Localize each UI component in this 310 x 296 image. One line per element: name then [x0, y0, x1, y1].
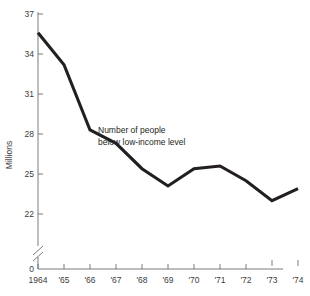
- line-chart: 37 34 31 28 25 22 0 Millions 1964 '65 '6…: [0, 0, 310, 296]
- y-tick-label-31: 31: [25, 89, 35, 99]
- x-tick-label-72: '72: [240, 275, 251, 285]
- x-tick-label-74: '74: [292, 275, 303, 285]
- series-annotation-line1: Number of people: [98, 125, 166, 135]
- chart-container: 37 34 31 28 25 22 0 Millions 1964 '65 '6…: [0, 0, 310, 296]
- y-tick-marks: [38, 14, 43, 214]
- y-tick-label-34: 34: [25, 49, 35, 59]
- x-tick-label-71: '71: [214, 275, 225, 285]
- x-tick-label-67: '67: [110, 275, 121, 285]
- x-tick-label-69: '69: [162, 275, 173, 285]
- y-axis-title: Millions: [4, 141, 14, 169]
- x-tick-label-70: '70: [188, 275, 199, 285]
- x-tick-label-1964: 1964: [29, 275, 48, 285]
- x-tick-label-65: '65: [58, 275, 69, 285]
- x-tick-label-68: '68: [136, 275, 147, 285]
- x-tick-label-66: '66: [84, 275, 95, 285]
- x-tick-marks: [38, 260, 298, 269]
- series-annotation-line2: below low-income level: [98, 137, 186, 147]
- y-tick-label-22: 22: [25, 209, 35, 219]
- y-tick-label-28: 28: [25, 129, 35, 139]
- x-tick-label-73: '73: [266, 275, 277, 285]
- y-tick-label-25: 25: [25, 169, 35, 179]
- y-origin-label: 0: [29, 264, 34, 274]
- series-line-low-income: [38, 33, 298, 201]
- y-tick-label-37: 37: [25, 9, 35, 19]
